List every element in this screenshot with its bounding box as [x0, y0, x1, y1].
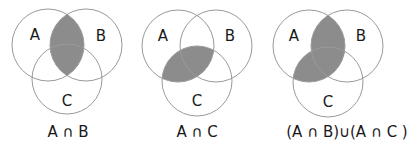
venn-diagram-union-of-intersections: A B C (A ∩ B)∪(A ∩ C ) [273, 10, 408, 141]
set-label-a: A [289, 27, 300, 45]
set-label-b: B [356, 27, 366, 45]
set-label-c: C [62, 92, 72, 110]
set-label-a: A [30, 26, 41, 44]
set-label-c: C [192, 92, 202, 110]
venn-diagrams-canvas: A B C A ∩ B A B C A ∩ C [0, 0, 418, 151]
venn-diagram-figure: A B C A ∩ B A B C A ∩ C [0, 0, 418, 151]
circle-b [180, 10, 252, 82]
caption-a-intersect-b: A ∩ B [47, 123, 88, 141]
set-label-b: B [96, 27, 106, 45]
set-label-a: A [158, 27, 169, 45]
venn-diagram-a-intersect-c: A B C A ∩ C [142, 10, 252, 141]
caption-a-intersect-c: A ∩ C [176, 123, 217, 141]
caption-union-of-intersections: (A ∩ B)∪(A ∩ C ) [286, 123, 407, 141]
set-label-b: B [225, 27, 235, 45]
set-label-c: C [323, 93, 333, 111]
venn-diagram-a-intersect-b: A B C A ∩ B [12, 9, 122, 141]
